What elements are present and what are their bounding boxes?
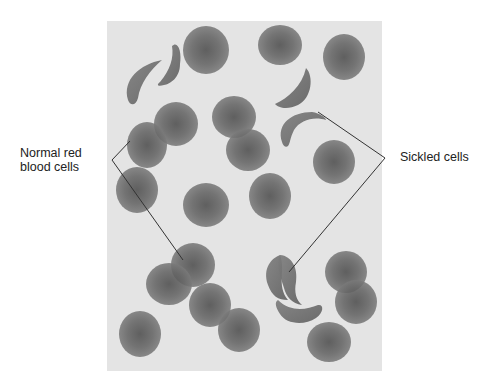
normal-red-blood-cell — [127, 122, 167, 168]
normal-red-blood-cell — [119, 311, 161, 357]
label-normal-line2: blood cells — [20, 160, 110, 174]
label-normal-line1: Normal red — [20, 146, 110, 160]
normal-red-blood-cell — [226, 129, 270, 171]
normal-red-blood-cell — [218, 308, 260, 352]
figure: Normal red blood cells Sickled cells — [0, 0, 485, 386]
normal-red-blood-cell — [313, 140, 355, 184]
normal-red-blood-cell — [258, 25, 302, 65]
normal-red-blood-cell — [323, 34, 365, 80]
normal-red-blood-cell — [183, 183, 229, 227]
normal-red-blood-cell — [335, 280, 377, 324]
cell-illustration — [0, 0, 485, 386]
normal-red-blood-cell — [307, 322, 351, 362]
label-normal-red-blood-cells: Normal red blood cells — [20, 146, 110, 174]
normal-red-blood-cell — [146, 263, 192, 305]
label-sickled-cells: Sickled cells — [400, 150, 485, 164]
normal-red-blood-cell — [249, 173, 291, 219]
normal-red-blood-cell — [183, 26, 229, 74]
